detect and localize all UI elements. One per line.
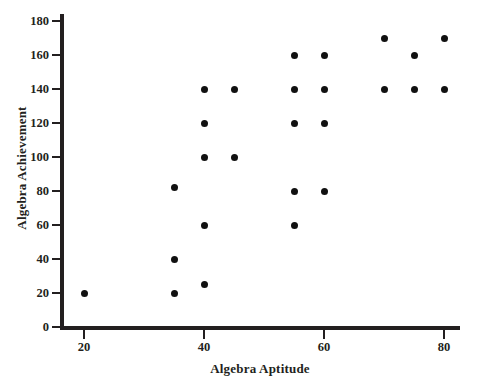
y-tick-label-160: 160: [30, 49, 49, 62]
data-point: [201, 154, 208, 161]
y-tick-label-80: 80: [37, 185, 50, 198]
data-point: [411, 86, 418, 93]
y-tick-label-60: 60: [37, 219, 50, 232]
x-tick-20: [83, 330, 85, 339]
data-point: [291, 52, 298, 59]
y-tick-100: [52, 156, 61, 158]
y-tick-40: [52, 258, 61, 260]
data-point: [441, 35, 448, 42]
data-point: [201, 222, 208, 229]
x-axis-line: [60, 326, 460, 330]
data-point: [321, 188, 328, 195]
data-point: [231, 154, 238, 161]
y-tick-label-0: 0: [43, 321, 49, 334]
y-axis-title: Algebra Achievement: [14, 68, 30, 268]
y-tick-180: [52, 20, 61, 22]
data-point: [411, 52, 418, 59]
data-point: [201, 86, 208, 93]
y-tick-label-140: 140: [30, 83, 49, 96]
plot-area: 020406080100120140160180 20406080 Algebr…: [0, 0, 478, 391]
y-tick-label-100: 100: [30, 151, 49, 164]
x-tick-label-60: 60: [318, 341, 331, 354]
y-tick-label-40: 40: [37, 253, 50, 266]
data-point: [291, 188, 298, 195]
y-tick-120: [52, 122, 61, 124]
data-point: [171, 290, 178, 297]
data-point: [381, 35, 388, 42]
y-tick-label-20: 20: [37, 287, 50, 300]
x-tick-label-40: 40: [198, 341, 211, 354]
data-point: [441, 86, 448, 93]
data-point: [321, 52, 328, 59]
y-tick-label-180: 180: [30, 15, 49, 28]
data-point: [291, 222, 298, 229]
x-tick-40: [203, 330, 205, 339]
y-tick-140: [52, 88, 61, 90]
data-point: [81, 290, 88, 297]
y-tick-20: [52, 292, 61, 294]
data-point: [201, 281, 208, 288]
data-point: [381, 86, 388, 93]
data-point: [171, 256, 178, 263]
y-tick-label-120: 120: [30, 117, 49, 130]
x-tick-label-80: 80: [438, 341, 451, 354]
y-tick-80: [52, 190, 61, 192]
x-tick-60: [323, 330, 325, 339]
x-axis-title: Algebra Aptitude: [60, 361, 460, 377]
y-axis-line: [60, 14, 64, 330]
data-point: [321, 86, 328, 93]
data-point: [291, 120, 298, 127]
data-point: [201, 120, 208, 127]
y-tick-160: [52, 54, 61, 56]
x-tick-80: [443, 330, 445, 339]
data-point: [291, 86, 298, 93]
data-point: [321, 120, 328, 127]
scatter-plot-figure: 020406080100120140160180 20406080 Algebr…: [0, 0, 478, 391]
data-point: [231, 86, 238, 93]
data-point: [171, 184, 178, 191]
x-tick-label-20: 20: [78, 341, 91, 354]
y-tick-60: [52, 224, 61, 226]
y-tick-0: [52, 326, 61, 328]
